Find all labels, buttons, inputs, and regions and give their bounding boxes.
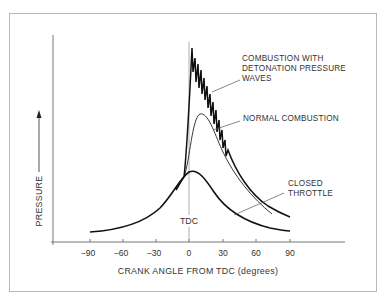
x-axis-label: CRANK ANGLE FROM TDC (degrees) [118, 266, 278, 276]
annotation-text: DETONATION PRESSURE [242, 64, 346, 73]
tdc-label: TDC [180, 216, 199, 226]
closed-throttle-leader-line [234, 193, 284, 215]
annotation-text: CLOSED [288, 179, 323, 188]
annotation-text: THROTTLE [288, 189, 333, 198]
detonation-leader-line [212, 80, 240, 92]
annotation-normal: NORMAL COMBUSTION [243, 114, 339, 123]
y-axis-label: PRESSURE [34, 176, 44, 227]
tick-label: 30 [218, 248, 228, 258]
tick-label: −30 [147, 248, 162, 258]
detonation-curve [184, 48, 290, 217]
tick-label: 0 [187, 248, 192, 258]
x-tick-labels: −90 −60 −30 0 30 60 90 [81, 248, 295, 258]
tick-label: −60 [114, 248, 129, 258]
annotation-text: WAVES [242, 74, 272, 83]
tick-label: −90 [81, 248, 96, 258]
compression-curve [176, 177, 184, 190]
annotation-closed-throttle: CLOSED THROTTLE [288, 179, 333, 198]
tick-label: 90 [285, 248, 295, 258]
tick-label: 60 [251, 248, 261, 258]
pressure-crank-angle-diagram: −90 −60 −30 0 30 60 90 CRANK ANGLE FROM … [0, 0, 391, 307]
annotation-detonation: COMBUSTION WITH DETONATION PRESSURE WAVE… [242, 54, 346, 83]
arrow-up-icon [37, 110, 42, 172]
annotation-text: COMBUSTION WITH [242, 54, 324, 63]
